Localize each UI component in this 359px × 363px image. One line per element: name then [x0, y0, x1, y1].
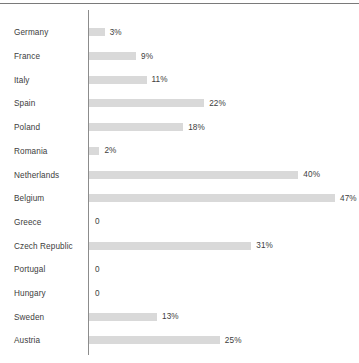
bar-with-value: 0 — [89, 218, 100, 226]
category-label: Czech Republic — [14, 241, 73, 250]
bar — [89, 313, 157, 321]
bar-row: Sweden13% — [0, 305, 359, 329]
bar-value-label: 0 — [95, 289, 100, 298]
category-label: Sweden — [14, 312, 44, 321]
bar — [89, 147, 99, 155]
bar — [89, 76, 147, 84]
bar-row: Italy11% — [0, 68, 359, 92]
bar — [89, 99, 204, 107]
bar — [89, 242, 251, 250]
bar-value-label: 18% — [188, 123, 205, 132]
category-label: Italy — [14, 75, 30, 84]
bar-value-label: 40% — [303, 170, 320, 179]
bar-row: Hungary0 — [0, 281, 359, 305]
bar-with-value: 9% — [89, 52, 153, 60]
bar-row: Belgium47% — [0, 186, 359, 210]
bar-with-value: 22% — [89, 99, 226, 107]
bar-with-value: 3% — [89, 28, 122, 36]
bar-row: Portugal0 — [0, 258, 359, 282]
bar-with-value: 47% — [89, 194, 357, 202]
bar-with-value: 40% — [89, 171, 320, 179]
bar-row: Austria25% — [0, 329, 359, 353]
bar-row: Germany3% — [0, 21, 359, 45]
bar-with-value: 18% — [89, 123, 205, 131]
category-label: Portugal — [14, 265, 45, 274]
bar — [89, 171, 298, 179]
bar-with-value: 2% — [89, 147, 117, 155]
plot-area: Germany3%France9%Italy11%Spain22%Poland1… — [0, 0, 359, 363]
bar-row: Poland18% — [0, 115, 359, 139]
bar-row: France9% — [0, 44, 359, 68]
category-label: Spain — [14, 99, 35, 108]
bar-with-value: 25% — [89, 336, 242, 344]
bar-with-value: 11% — [89, 76, 168, 84]
bar-value-label: 0 — [95, 265, 100, 274]
category-label: Greece — [14, 217, 41, 226]
bar — [89, 123, 183, 131]
bar — [89, 194, 335, 202]
bar-with-value: 0 — [89, 265, 100, 273]
bar-chart: Germany3%France9%Italy11%Spain22%Poland1… — [0, 0, 359, 363]
bar — [89, 336, 220, 344]
bar — [89, 52, 136, 60]
bar-row: Greece0 — [0, 210, 359, 234]
bar-value-label: 13% — [162, 312, 179, 321]
bar-row: Czech Republic31% — [0, 234, 359, 258]
bar-row: Spain22% — [0, 92, 359, 116]
category-label: Belgium — [14, 194, 44, 203]
bar-value-label: 2% — [104, 146, 116, 155]
bar-value-label: 0 — [95, 217, 100, 226]
bar-value-label: 11% — [152, 75, 168, 84]
bar-value-label: 31% — [256, 241, 273, 250]
category-label: Romania — [14, 146, 47, 155]
bar-row: Netherlands40% — [0, 163, 359, 187]
bar-value-label: 47% — [340, 194, 357, 203]
bar — [89, 28, 105, 36]
category-label: Germany — [14, 28, 48, 37]
bar-value-label: 9% — [141, 52, 153, 61]
category-label: Poland — [14, 123, 40, 132]
category-label: Hungary — [14, 289, 46, 298]
bar-value-label: 3% — [110, 28, 122, 37]
bar-value-label: 22% — [209, 99, 226, 108]
category-label: France — [14, 52, 40, 61]
bar-with-value: 13% — [89, 313, 179, 321]
category-label: Netherlands — [14, 170, 59, 179]
bar-with-value: 0 — [89, 289, 100, 297]
category-label: Austria — [14, 336, 40, 345]
bar-with-value: 31% — [89, 242, 273, 250]
bar-row: Romania2% — [0, 139, 359, 163]
bar-value-label: 25% — [225, 336, 242, 345]
